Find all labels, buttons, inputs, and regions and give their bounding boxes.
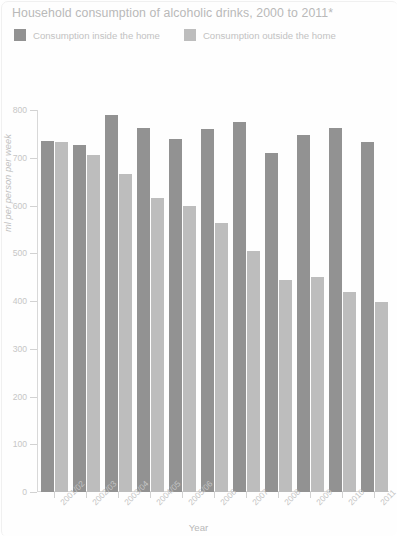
chart-legend: Consumption inside the home Consumption …	[14, 29, 336, 41]
bar-outside-home[interactable]	[215, 223, 228, 492]
bar-group	[73, 110, 100, 492]
y-tick-label: 400	[13, 296, 27, 306]
y-axis-title: ml per person per week	[2, 134, 13, 232]
y-tick-label: 200	[13, 392, 27, 402]
x-tick-mark	[86, 492, 87, 498]
bar-outside-home[interactable]	[375, 302, 388, 492]
legend-label-inside-home: Consumption inside the home	[33, 30, 160, 41]
legend-item-outside-home[interactable]: Consumption outside the home	[184, 29, 336, 41]
bar-inside-home[interactable]	[233, 122, 246, 492]
x-tick-mark	[246, 492, 247, 498]
plot-area: 0100200300400500600700800	[37, 110, 389, 492]
bar-outside-home[interactable]	[183, 206, 196, 493]
bar-outside-home[interactable]	[119, 174, 132, 492]
bar-group	[137, 110, 164, 492]
y-tick-mark	[30, 492, 37, 493]
x-tick-mark	[342, 492, 343, 498]
x-tick-label: 2003/04	[122, 500, 129, 507]
x-tick-label: 2008	[282, 500, 289, 507]
x-tick-label: 2010	[346, 500, 353, 507]
bar-group	[169, 110, 196, 492]
x-tick-mark	[278, 492, 279, 498]
y-tick-mark	[30, 206, 37, 207]
bar-outside-home[interactable]	[151, 198, 164, 492]
bar-outside-home[interactable]	[311, 277, 324, 492]
bar-group	[41, 110, 68, 492]
y-tick-label: 100	[13, 439, 27, 449]
bar-inside-home[interactable]	[105, 115, 118, 492]
y-tick-label: 700	[13, 153, 27, 163]
bar-inside-home[interactable]	[137, 128, 150, 492]
bar-inside-home[interactable]	[361, 142, 374, 492]
x-tick-mark	[374, 492, 375, 498]
bar-group	[265, 110, 292, 492]
bar-group	[201, 110, 228, 492]
x-axis-title: Year	[0, 522, 397, 533]
x-tick-mark	[118, 492, 119, 498]
chart-card: Household consumption of alcoholic drink…	[0, 0, 397, 536]
legend-swatch-outside-home	[184, 29, 196, 41]
y-tick-mark	[30, 110, 37, 111]
bar-group	[233, 110, 260, 492]
bar-inside-home[interactable]	[265, 153, 278, 492]
y-tick-label: 500	[13, 248, 27, 258]
x-tick-label: 2011	[378, 500, 385, 507]
bar-outside-home[interactable]	[247, 251, 260, 492]
bar-group	[297, 110, 324, 492]
legend-item-inside-home[interactable]: Consumption inside the home	[14, 29, 160, 41]
bar-inside-home[interactable]	[41, 141, 54, 492]
x-tick-mark	[182, 492, 183, 498]
bar-group	[329, 110, 356, 492]
y-tick-label: 300	[13, 344, 27, 354]
y-tick-mark	[30, 397, 37, 398]
bar-outside-home[interactable]	[87, 155, 100, 492]
bar-outside-home[interactable]	[343, 292, 356, 492]
x-tick-label: 2004/05	[154, 500, 161, 507]
bar-group	[361, 110, 388, 492]
legend-label-outside-home: Consumption outside the home	[203, 30, 336, 41]
y-tick-mark	[30, 444, 37, 445]
y-tick-mark	[30, 349, 37, 350]
y-tick-mark	[30, 158, 37, 159]
bar-inside-home[interactable]	[73, 145, 86, 492]
x-tick-label: 2002/03	[90, 500, 97, 507]
x-tick-label: 2005/06	[186, 500, 193, 507]
bar-inside-home[interactable]	[329, 128, 342, 492]
bar-group	[105, 110, 132, 492]
bar-inside-home[interactable]	[297, 135, 310, 492]
y-tick-mark	[30, 301, 37, 302]
x-tick-label: 2006	[218, 500, 225, 507]
y-tick-label: 600	[13, 201, 27, 211]
y-tick-label: 800	[13, 105, 27, 115]
bar-inside-home[interactable]	[169, 139, 182, 492]
x-tick-mark	[214, 492, 215, 498]
bar-outside-home[interactable]	[279, 280, 292, 492]
x-tick-label: 2001/02	[58, 500, 65, 507]
y-tick-mark	[30, 253, 37, 254]
bars-layer	[37, 110, 389, 492]
bar-outside-home[interactable]	[55, 142, 68, 492]
chart-title: Household consumption of alcoholic drink…	[12, 6, 333, 20]
x-tick-mark	[310, 492, 311, 498]
x-tick-mark	[150, 492, 151, 498]
x-tick-label: 2007	[250, 500, 257, 507]
bar-inside-home[interactable]	[201, 129, 214, 492]
y-tick-label: 0	[22, 487, 27, 497]
x-tick-label: 2009	[314, 500, 321, 507]
x-tick-mark	[54, 492, 55, 498]
legend-swatch-inside-home	[14, 29, 26, 41]
